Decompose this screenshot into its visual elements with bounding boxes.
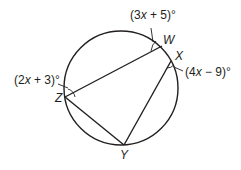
angle-label-z: (2x + 3)°	[14, 73, 60, 87]
segment-yx	[124, 61, 171, 145]
angle-label-w: (3x + 5)°	[130, 8, 176, 22]
segment-zw	[65, 46, 162, 97]
vertex-label-x: X	[174, 49, 184, 63]
geometry-diagram: (3x + 5)° (4x − 9)° (2x + 3)° W X Z Y	[0, 0, 241, 170]
vertex-label-z: Z	[54, 91, 63, 105]
angle-label-x: (4x − 9)°	[185, 65, 231, 79]
vertex-label-y: Y	[120, 148, 129, 162]
vertex-label-w: W	[163, 33, 176, 47]
